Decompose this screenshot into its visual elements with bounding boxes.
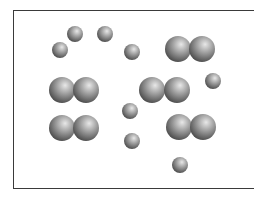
large-sphere [73,77,99,103]
large-sphere [139,77,165,103]
large-sphere [49,77,75,103]
diatomic-molecule [139,77,190,103]
single-atom [124,133,140,149]
large-sphere [164,77,190,103]
single-atom [205,73,221,89]
large-sphere [49,115,75,141]
large-sphere [165,36,191,62]
large-sphere [189,36,215,62]
large-sphere [190,114,216,140]
diatomic-molecule [165,36,215,62]
particle-scene [0,0,254,199]
single-atom [172,157,188,173]
single-atom [97,26,113,42]
diatomic-molecule [166,114,216,140]
single-atom [122,103,138,119]
single-atom [67,26,83,42]
diatomic-molecule [49,77,99,103]
diatomic-molecule [49,115,99,141]
single-atom [52,42,68,58]
single-atom [124,44,140,60]
large-sphere [73,115,99,141]
large-sphere [166,114,192,140]
